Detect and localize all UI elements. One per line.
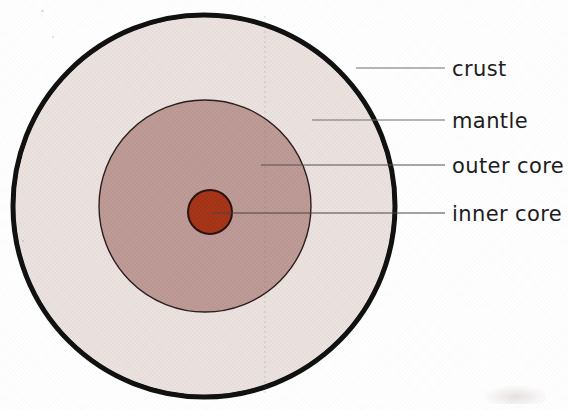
label-mantle: mantle	[452, 109, 528, 133]
diagram-canvas: crust mantle outer core inner core	[0, 0, 568, 410]
label-inner-core: inner core	[452, 202, 562, 226]
layer-inner-core	[188, 190, 232, 234]
label-crust: crust	[452, 57, 507, 81]
callout-labels: crust mantle outer core inner core	[452, 57, 564, 226]
label-outer-core: outer core	[452, 154, 564, 178]
inner-core-circle	[188, 190, 232, 234]
earth-layers-diagram: crust mantle outer core inner core	[0, 0, 568, 410]
